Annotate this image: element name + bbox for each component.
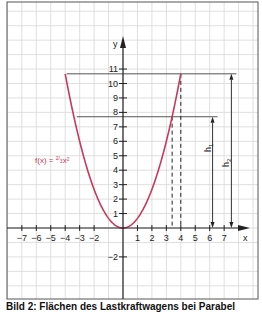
svg-text:2: 2 xyxy=(149,233,154,243)
svg-text:4: 4 xyxy=(113,165,118,175)
x-axis-label: x xyxy=(243,233,248,243)
svg-text:−3: −3 xyxy=(75,233,85,243)
svg-text:3: 3 xyxy=(164,233,169,243)
svg-text:6: 6 xyxy=(113,136,118,146)
svg-text:−7: −7 xyxy=(17,233,27,243)
grid xyxy=(7,2,258,299)
svg-text:2: 2 xyxy=(113,194,118,204)
figure-caption: Bild 2: Flächen des Lastkraftwagens bei … xyxy=(6,301,235,312)
svg-text:4: 4 xyxy=(178,233,183,243)
svg-text:11: 11 xyxy=(109,64,118,74)
svg-text:1: 1 xyxy=(113,209,118,219)
axes xyxy=(7,36,250,299)
svg-text:6: 6 xyxy=(207,233,212,243)
svg-text:8: 8 xyxy=(113,107,118,117)
svg-text:7: 7 xyxy=(222,233,227,243)
svg-text:7: 7 xyxy=(113,122,118,132)
svg-text:−4: −4 xyxy=(60,233,70,243)
svg-text:−2: −2 xyxy=(108,252,118,262)
function-label: f(x) = 2/3x² xyxy=(35,155,70,165)
svg-text:1: 1 xyxy=(135,233,140,243)
h1-label: h1 xyxy=(203,143,214,152)
svg-text:−2: −2 xyxy=(89,233,99,243)
svg-text:10: 10 xyxy=(108,79,118,89)
y-axis-label: y xyxy=(113,39,118,49)
svg-text:−6: −6 xyxy=(31,233,41,243)
h2-label: h2 xyxy=(221,158,232,167)
svg-text:9: 9 xyxy=(113,93,118,103)
svg-text:−5: −5 xyxy=(46,233,56,243)
frame xyxy=(7,2,258,299)
svg-text:5: 5 xyxy=(193,233,198,243)
parabola-chart: −7−6−5−4−3−21234567−21234567891011 x y f… xyxy=(0,0,262,300)
svg-text:5: 5 xyxy=(113,151,118,161)
svg-text:3: 3 xyxy=(113,180,118,190)
